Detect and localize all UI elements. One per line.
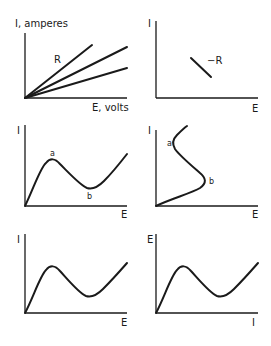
annotation-b: b	[87, 192, 92, 201]
annotation-a: a	[167, 139, 172, 148]
y-axis-label: I	[17, 125, 20, 136]
annotation-b: b	[209, 177, 214, 186]
panel-ohmic-lines: I, amperes E, volts R	[15, 18, 129, 113]
panel-n-curve-labeled: I E a b	[17, 125, 127, 220]
panel-s-curve-labeled: I E a b	[148, 125, 258, 220]
x-axis-label: E	[252, 209, 258, 220]
x-axis-label: E	[121, 209, 127, 220]
n-curve	[156, 263, 258, 313]
n-curve	[25, 154, 127, 206]
line-high-slope	[25, 45, 92, 98]
figure: I, amperes E, volts R I E −R I E a b I E…	[0, 0, 271, 346]
y-axis-label: I	[148, 18, 151, 29]
panel-n-curve-ie: I E	[17, 234, 127, 328]
annotation-neg-r: −R	[207, 55, 222, 66]
x-axis-label: E, volts	[92, 102, 129, 113]
panel-n-curve-ei: E I	[147, 234, 258, 328]
annotation-r: R	[54, 54, 61, 65]
y-axis-label: E	[147, 234, 153, 245]
y-axis-label: I	[17, 234, 20, 245]
n-curve	[25, 263, 127, 313]
y-axis-label: I, amperes	[15, 18, 68, 29]
x-axis-label: E	[121, 317, 127, 328]
y-axis-label: I	[148, 125, 151, 136]
s-curve	[156, 126, 205, 206]
x-axis-label: I	[252, 317, 255, 328]
panel-negative-resistance: I E −R	[148, 18, 258, 114]
annotation-a: a	[50, 149, 55, 158]
x-axis-label: E	[252, 103, 258, 114]
